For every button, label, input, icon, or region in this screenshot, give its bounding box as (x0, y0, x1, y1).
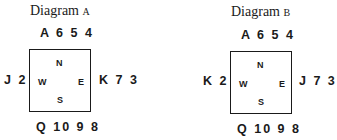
compass-south: S (258, 97, 264, 107)
compass-east: E (78, 77, 84, 87)
east-hand: J 7 3 (299, 74, 337, 88)
title-letter: B (283, 7, 290, 18)
diagram-a: Diagram A A 6 5 4 N W E S J 2 K 7 3 Q 10… (0, 0, 165, 140)
title-letter: A (82, 6, 90, 17)
south-hand: Q 10 9 8 (36, 120, 100, 134)
west-hand: K 2 (203, 74, 228, 88)
diagram-title: Diagram B (231, 4, 291, 20)
north-hand: A 6 5 4 (40, 26, 94, 40)
compass-west: W (38, 77, 47, 87)
compass-east: E (279, 79, 285, 89)
compass-north: N (56, 58, 63, 68)
south-hand: Q 10 9 8 (237, 122, 301, 136)
compass-box: N W E S (29, 49, 91, 112)
diagram-title: Diagram A (30, 3, 90, 19)
diagram-b: Diagram B A 6 5 4 N W E S K 2 J 7 3 Q 10… (165, 0, 330, 140)
east-hand: K 7 3 (99, 73, 139, 87)
title-word: Diagram (30, 3, 79, 18)
compass-west: W (239, 79, 248, 89)
north-hand: A 6 5 4 (241, 28, 295, 42)
compass-box: N W E S (230, 51, 292, 114)
compass-north: N (257, 60, 264, 70)
west-hand: J 2 (4, 73, 27, 87)
compass-south: S (57, 95, 63, 105)
title-word: Diagram (231, 4, 280, 19)
